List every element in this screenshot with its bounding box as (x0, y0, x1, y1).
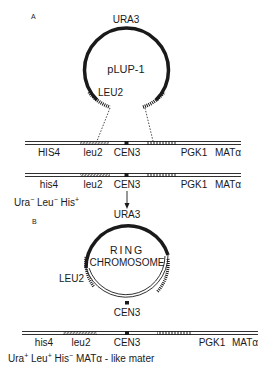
phenotype-b: Ura+ Leu+ His− MATα - like mater (8, 354, 154, 364)
phenotype-leu: Leu− (37, 197, 58, 208)
plasmid-gene-ura3: URA3 (113, 15, 140, 25)
locus-cen3: CEN3 (114, 148, 141, 158)
transition-arrow (125, 191, 130, 209)
ring-name-line1: RING (110, 245, 144, 255)
phenotype-ura: Ura− (14, 197, 34, 208)
locus-leu2: leu2 (84, 148, 103, 158)
ring-name-line2: CHROMOSOME (90, 258, 165, 268)
locus-pgk1: PGK1 (199, 338, 226, 348)
locus-his4-mut: his4 (40, 180, 58, 190)
panel-label-a: A (31, 12, 36, 22)
ring-gene-cen3: CEN3 (114, 308, 141, 318)
chromosome-line-2 (25, 173, 241, 177)
ring-gene-leu2: LEU2 (59, 274, 84, 284)
locus-cen3: CEN3 (114, 180, 141, 190)
plasmid-name: pLUP-1 (107, 64, 144, 74)
locus-mat: MATα (215, 148, 241, 158)
locus-pgk1: PGK1 (181, 180, 208, 190)
phenotype-mating: MATα - like mater (76, 353, 154, 364)
locus-mat: MATα (215, 180, 241, 190)
phenotype-leu: Leu+ (31, 353, 52, 364)
chromosome-line-1 (25, 141, 241, 145)
phenotype-ura: Ura+ (8, 353, 28, 364)
locus-his4-mut: his4 (35, 338, 53, 348)
locus-cen3: CEN3 (114, 338, 141, 348)
ring-gene-ura3: URA3 (114, 210, 141, 220)
locus-pgk1: PGK1 (181, 148, 208, 158)
phenotype-his: His+ (61, 197, 80, 208)
phenotype-his: His− (55, 353, 74, 364)
locus-mat: MATα (232, 338, 258, 348)
locus-leu2: leu2 (84, 180, 103, 190)
locus-his4-wt: HIS4 (38, 148, 60, 158)
integration-line-left (97, 108, 110, 141)
chromosome-line-3 (22, 331, 258, 335)
plasmid-gene-leu2: LEU2 (98, 88, 123, 98)
locus-leu2: leu2 (72, 338, 91, 348)
integration-line-right (145, 108, 153, 141)
panel-label-b: B (32, 217, 37, 227)
phenotype-a: Ura− Leu− His+ (14, 198, 79, 208)
